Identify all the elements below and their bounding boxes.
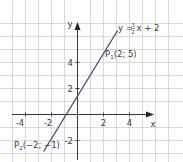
y-tick-label: 4	[68, 58, 73, 68]
x-tick-label: -4	[16, 118, 24, 128]
y-tick-label: 2	[68, 84, 73, 94]
y-tick-label: -2	[65, 136, 73, 146]
x-axis-arrow-icon	[146, 112, 154, 118]
x-tick-label: 2	[101, 118, 106, 128]
y-axis-label: y	[67, 19, 72, 29]
coordinate-plane: -4 -2 2 4 x 4 2 -2 y y = 3 2 x + 2 P1(2;…	[0, 0, 183, 162]
x-tick-label: 4	[127, 118, 132, 128]
svg-text:x + 2: x + 2	[137, 23, 160, 33]
point-label-p2: P2(−2; −1)	[14, 140, 60, 151]
svg-text:3: 3	[131, 22, 135, 28]
x-tick-label: -2	[44, 118, 52, 128]
svg-text:P1(2; 5): P1(2; 5)	[105, 49, 137, 60]
x-axis-label: x	[150, 119, 155, 129]
svg-text:P2(−2; −1): P2(−2; −1)	[14, 140, 60, 151]
svg-text:2: 2	[131, 29, 135, 35]
equation-label: y = 3 2 x + 2	[118, 22, 159, 35]
point-label-p1: P1(2; 5)	[105, 49, 137, 60]
